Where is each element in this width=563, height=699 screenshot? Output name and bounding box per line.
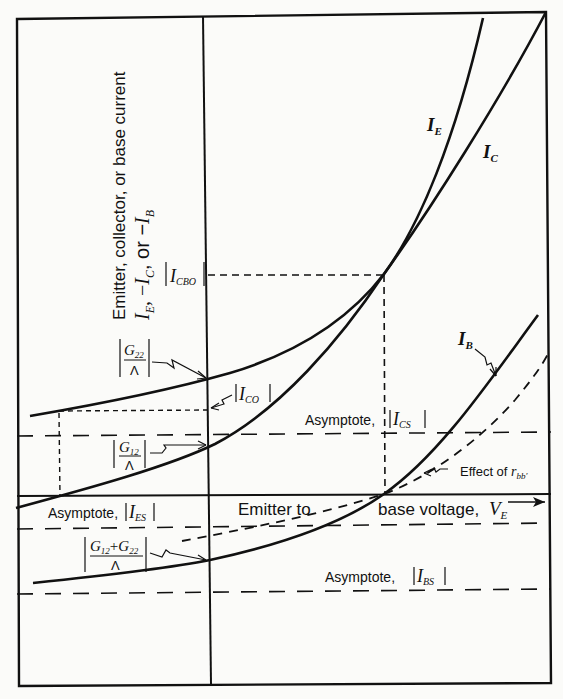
base-current-curve [33, 315, 538, 583]
svg-text:IBS: IBS [416, 566, 434, 587]
ib-leader-arrow-icon [475, 349, 496, 376]
asymptote-ibs-label: Asymptote, IBS [325, 566, 445, 587]
g12-fraction-marker: G12 Λ [114, 439, 145, 473]
voltage-axis-arrow-icon [508, 497, 545, 507]
asymptote-ics-line [17, 432, 551, 436]
emitter-current-curve [30, 18, 483, 416]
asymptote-ics-label: Asymptote, ICS [305, 409, 425, 430]
svg-text:Asymptote,: Asymptote, [48, 505, 118, 521]
ico-leader-arrow-icon [211, 395, 232, 410]
ico-marker: ICO [236, 384, 270, 405]
rbb-effect-label: Effect of rbb′ [460, 464, 529, 481]
ico-guide-vertical [59, 413, 60, 497]
icbo-label: ICBO [169, 266, 196, 287]
g12-plus-g22-fraction-marker: G12+G22 Λ [85, 537, 146, 573]
x-axis-label-left: Emitter to [238, 500, 311, 519]
voltage-axis [17, 494, 551, 496]
ico-guide-horizontal [59, 410, 209, 411]
svg-text:Asymptote,: Asymptote, [305, 412, 375, 428]
svg-text:Λ: Λ [130, 363, 139, 378]
collector-curve-label: IC [482, 141, 498, 164]
emitter-curve-label: IE [426, 114, 442, 137]
svg-text:G12+G22: G12+G22 [90, 538, 139, 556]
g12-g22-leader-arrow-icon [150, 550, 206, 562]
current-axis [203, 16, 211, 684]
base-curve-label: IB [457, 328, 473, 351]
asymptote-ies-label: Asymptote, IES [48, 502, 154, 523]
y-axis-label: Emitter, collector, or base current IE, … [110, 71, 157, 321]
ico-label: ICO [238, 384, 259, 405]
asymptote-ies-line [17, 523, 551, 529]
transistor-current-characteristics-diagram: Emitter, collector, or base current IE, … [0, 0, 563, 699]
svg-text:G22: G22 [124, 342, 144, 360]
icbo-guide-vertical [384, 275, 385, 494]
svg-text:ICS: ICS [392, 409, 411, 430]
svg-text:Asymptote,: Asymptote, [325, 569, 395, 585]
y-axis-label-line1: Emitter, collector, or base current [110, 71, 129, 320]
svg-text:Λ: Λ [125, 458, 134, 473]
svg-text:Λ: Λ [111, 558, 120, 573]
svg-text:IES: IES [128, 502, 146, 523]
x-axis-label-right: base voltage, [378, 500, 479, 519]
x-axis-variable: VE [489, 498, 508, 521]
y-axis-label-line2: IE, −IC, or −IB [131, 209, 157, 321]
svg-text:G12: G12 [119, 439, 139, 457]
icbo-marker: ICBO [166, 262, 204, 287]
asymptote-ibs-line [17, 589, 551, 594]
g22-fraction-marker: G22 Λ [120, 339, 149, 378]
g22-leader-arrow-icon [152, 360, 206, 379]
